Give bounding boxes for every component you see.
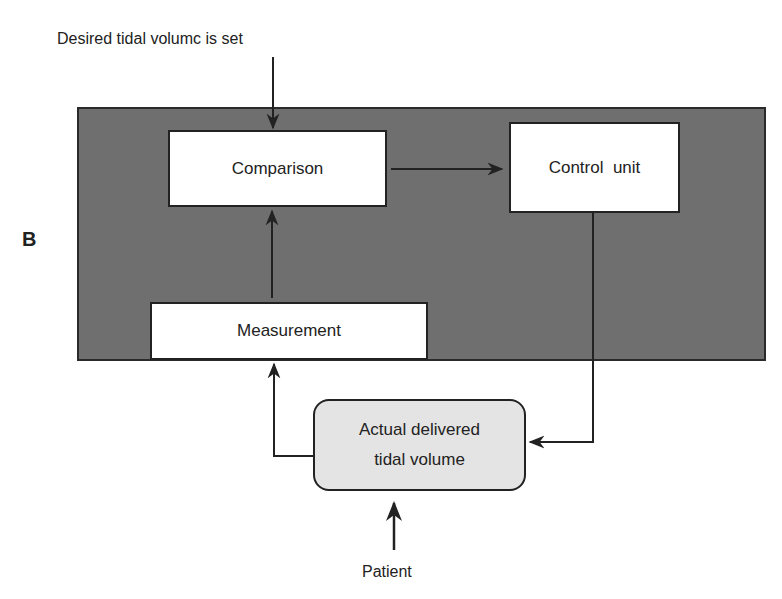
control-unit-label: Control unit <box>549 158 641 178</box>
actual-volume-label-1: Actual delivered <box>359 415 480 445</box>
panel-letter: B <box>22 228 36 251</box>
actual-volume-node: Actual delivered tidal volume <box>313 399 526 491</box>
comparison-label: Comparison <box>232 159 324 179</box>
input-label: Desired tidal volumc is set <box>57 30 243 48</box>
comparison-node: Comparison <box>168 130 387 207</box>
volume-to-measurement-arrow <box>274 364 313 456</box>
control-unit-node: Control unit <box>509 122 680 213</box>
measurement-node: Measurement <box>150 302 428 360</box>
measurement-label: Measurement <box>237 321 341 341</box>
patient-label: Patient <box>362 563 412 581</box>
actual-volume-label-2: tidal volume <box>374 445 465 475</box>
